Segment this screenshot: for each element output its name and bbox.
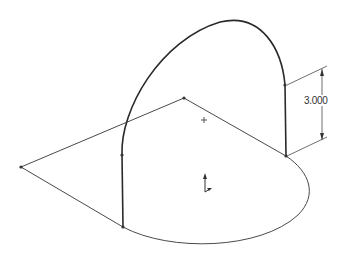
right-vertical-edge[interactable] xyxy=(285,85,286,156)
base-edge-left-top[interactable] xyxy=(21,98,184,167)
left-vertical-edge[interactable] xyxy=(122,155,123,227)
dim-arrow-up-icon xyxy=(320,69,324,76)
vertex-right-bottom[interactable] xyxy=(284,154,287,157)
vertex-front-bottom[interactable] xyxy=(121,225,124,228)
dimension-value[interactable]: 3.000 xyxy=(303,95,329,106)
vertex-top[interactable] xyxy=(182,96,185,99)
vertex-right-mid[interactable] xyxy=(283,83,286,86)
base-arc[interactable] xyxy=(123,156,309,244)
vertex-left-mid[interactable] xyxy=(120,153,123,156)
top-arch[interactable] xyxy=(122,20,285,155)
base-edge-left-bottom[interactable] xyxy=(21,167,123,227)
dim-extension-bottom xyxy=(287,137,327,156)
center-point-icon xyxy=(201,117,207,123)
vertex-left[interactable] xyxy=(19,165,22,168)
sketch-canvas[interactable] xyxy=(0,0,360,255)
base-edge-top-right[interactable] xyxy=(184,98,286,156)
sketch-origin-icon xyxy=(203,173,212,192)
